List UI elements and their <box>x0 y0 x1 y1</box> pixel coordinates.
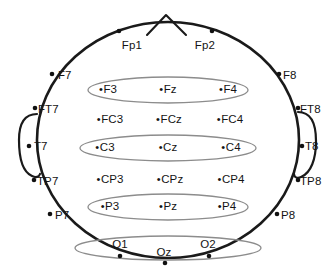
electrode-dot-T8 <box>300 144 305 149</box>
electrode-dot-P7 <box>48 212 53 217</box>
electrode-label-T7: T7 <box>34 141 48 153</box>
electrode-label-CP4: CP4 <box>217 174 244 186</box>
electrode-label-Pz: Pz <box>159 201 177 213</box>
electrode-label-F7: F7 <box>58 70 72 82</box>
electrode-dot-O1 <box>118 254 123 259</box>
electrode-label-FT8: FT8 <box>300 104 321 116</box>
electrode-label-T8: T8 <box>305 141 319 153</box>
electrode-dot-FT7 <box>33 106 38 111</box>
electrode-label-Cz: Cz <box>159 142 178 154</box>
electrode-label-Fp2: Fp2 <box>195 40 215 52</box>
electrode-dot-F7 <box>50 72 55 77</box>
electrode-dot-Oz <box>163 261 168 266</box>
electrode-label-FC4: FC4 <box>217 114 243 126</box>
electrode-label-FT7: FT7 <box>38 104 59 116</box>
electrode-label-P3: P3 <box>101 201 120 213</box>
head-outline <box>37 22 299 258</box>
electrode-label-CPz: CPz <box>157 174 183 186</box>
electrode-label-C4: C4 <box>221 142 240 154</box>
electrode-dot-P8 <box>275 212 280 217</box>
electrode-label-P8: P8 <box>281 210 295 222</box>
electrode-dot-Fp1 <box>117 29 122 34</box>
electrode-dot-O2 <box>207 254 212 259</box>
electrode-label-O1: O1 <box>112 239 128 251</box>
electrode-label-F4: F4 <box>219 84 237 96</box>
electrode-label-FCz: FCz <box>156 114 182 126</box>
electrode-label-P4: P4 <box>218 201 237 213</box>
electrode-dot-Fp2 <box>210 29 215 34</box>
electrode-label-P7: P7 <box>55 210 69 222</box>
electrode-label-FC3: FC3 <box>97 114 123 126</box>
electrode-dot-F8 <box>277 72 282 77</box>
electrode-label-C3: C3 <box>95 142 114 154</box>
electrode-label-TP7: TP7 <box>37 176 58 188</box>
electrode-label-F8: F8 <box>283 70 297 82</box>
electrode-label-CP3: CP3 <box>96 174 123 186</box>
electrode-label-F3: F3 <box>99 84 117 96</box>
electrode-label-Fz: Fz <box>159 84 176 96</box>
nose-icon <box>147 15 186 35</box>
electrode-label-Fp1: Fp1 <box>122 40 142 52</box>
electrode-label-Oz: Oz <box>156 247 171 259</box>
eeg-electrode-diagram: Fp1Fp2F7F3FzF4F8FT7FC3FCzFC4FT8T7C3CzC4T… <box>0 0 335 271</box>
electrode-label-O2: O2 <box>200 239 216 251</box>
electrode-label-TP8: TP8 <box>300 176 321 188</box>
electrode-dot-T7 <box>27 144 32 149</box>
head-schematic <box>0 0 335 271</box>
electrode-dot-TP7 <box>32 178 37 183</box>
